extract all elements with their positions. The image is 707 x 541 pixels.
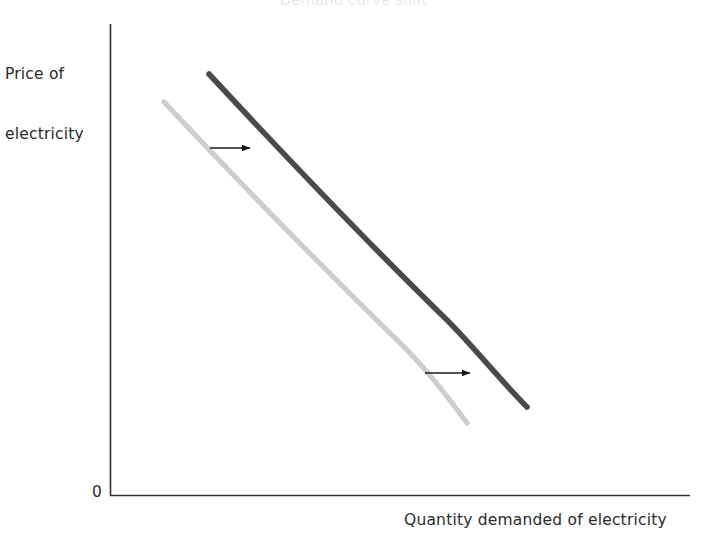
axes-group	[110, 24, 690, 496]
y-axis-label: Price of electricity	[5, 24, 84, 184]
x-axis-label: Quantity demanded of electricity	[404, 510, 667, 530]
origin-label: 0	[92, 482, 102, 502]
y-axis-label-line-2: electricity	[5, 124, 84, 144]
demand-curves-group	[164, 74, 527, 423]
original-demand-curve	[164, 102, 467, 423]
new-demand-curve	[209, 74, 527, 407]
demand-curve-figure: Demand curve shift Price of electricity …	[0, 0, 707, 541]
shift-arrows-group	[210, 148, 470, 373]
y-axis-label-line-1: Price of	[5, 64, 84, 84]
plot-canvas	[0, 0, 707, 541]
